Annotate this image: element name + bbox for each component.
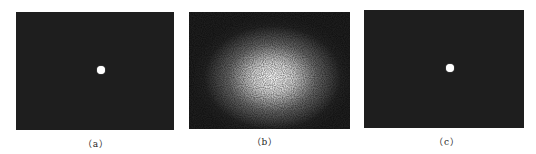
panel-b-speckle <box>189 12 350 129</box>
panel-a-bright-spot <box>97 66 105 74</box>
panel-b-image <box>189 12 350 129</box>
panel-a-caption: （a） <box>83 137 109 150</box>
panel-c-caption: （c） <box>434 135 460 148</box>
panel-c-image <box>364 10 524 128</box>
panel-c-bright-spot <box>446 64 454 72</box>
panel-b-caption: （b） <box>252 135 279 148</box>
panel-a-image <box>16 12 174 130</box>
